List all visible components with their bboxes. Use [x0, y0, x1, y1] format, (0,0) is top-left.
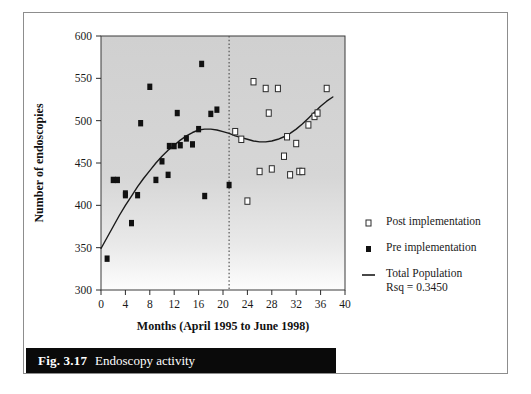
data-point-post	[263, 85, 268, 91]
figure-root: 300350400450500550600 048121620242832364…	[0, 0, 531, 394]
data-point-pre	[147, 84, 152, 90]
data-point-pre	[105, 255, 110, 261]
figure-caption-bar: Fig. 3.17 Endoscopy activity	[26, 348, 336, 373]
data-point-post	[300, 168, 305, 174]
data-point-post	[269, 166, 274, 172]
data-point-pre	[172, 143, 177, 149]
data-point-pre	[208, 111, 213, 117]
legend-marker-filled-square	[366, 246, 371, 252]
data-point-post	[315, 110, 320, 116]
y-axis-ticks: 300350400450500550600	[75, 30, 101, 296]
data-point-pre	[199, 61, 204, 67]
plot-background	[101, 36, 345, 290]
chart-legend: Post implementationPre implementationTot…	[362, 215, 481, 294]
data-point-pre	[202, 193, 207, 199]
data-point-pre	[227, 182, 232, 188]
data-point-post	[257, 168, 262, 174]
data-point-pre	[190, 141, 195, 147]
data-point-post	[282, 153, 287, 159]
x-axis-tick-label: 8	[147, 298, 153, 310]
data-point-pre	[214, 106, 219, 112]
legend-entry-sublabel: Rsq = 0.3450	[386, 281, 448, 294]
data-point-post	[245, 198, 250, 204]
data-point-pre	[167, 143, 172, 149]
data-point-post	[306, 122, 311, 128]
data-point-pre	[138, 120, 143, 126]
x-axis-tick-label: 36	[315, 298, 327, 310]
data-point-pre	[135, 192, 140, 198]
y-axis-tick-label: 450	[75, 157, 93, 169]
x-axis-tick-label: 24	[242, 298, 254, 310]
legend-entry-label: Total Population	[386, 267, 462, 280]
data-point-pre	[123, 190, 128, 196]
x-axis-tick-label: 12	[168, 298, 180, 310]
y-axis-tick-label: 350	[75, 242, 93, 254]
x-axis-tick-label: 40	[339, 298, 351, 310]
figure-caption-text: Endoscopy activity	[95, 353, 195, 369]
y-axis-tick-label: 600	[75, 30, 93, 42]
data-point-post	[294, 140, 299, 146]
data-point-post	[251, 79, 256, 85]
data-point-pre	[115, 177, 120, 183]
x-axis-tick-label: 4	[123, 298, 129, 310]
legend-entry-label: Pre implementation	[386, 241, 477, 254]
endoscopy-activity-chart: 300350400450500550600 048121620242832364…	[0, 0, 531, 394]
data-point-post	[288, 172, 293, 178]
data-point-pre	[111, 177, 116, 183]
x-axis-tick-label: 32	[290, 298, 302, 310]
data-point-pre	[129, 220, 134, 226]
figure-caption-label: Fig. 3.17	[38, 353, 87, 369]
x-axis-ticks: 0481216202428323640	[98, 290, 351, 310]
data-point-post	[285, 134, 290, 140]
data-point-pre	[196, 126, 201, 132]
y-axis-title: Number of endoscopies	[32, 103, 46, 222]
y-axis-tick-label: 500	[75, 115, 93, 127]
y-axis-tick-label: 550	[75, 72, 93, 84]
data-point-pre	[166, 172, 171, 178]
x-axis-tick-label: 0	[98, 298, 104, 310]
data-point-pre	[160, 158, 165, 164]
data-point-pre	[175, 110, 180, 116]
x-axis-tick-label: 20	[217, 298, 229, 310]
x-axis-title: Months (April 1995 to June 1998)	[137, 319, 309, 333]
data-point-post	[239, 136, 244, 142]
data-point-post	[233, 128, 238, 134]
legend-entry-label: Post implementation	[386, 215, 481, 228]
data-point-post	[275, 85, 280, 91]
data-point-post	[266, 110, 271, 116]
data-point-pre	[178, 142, 183, 148]
y-axis-tick-label: 300	[75, 284, 93, 296]
y-axis-tick-label: 400	[75, 199, 93, 211]
legend-marker-open-square	[366, 220, 371, 226]
x-axis-tick-label: 28	[266, 298, 278, 310]
x-axis-tick-label: 16	[193, 298, 205, 310]
data-point-pre	[184, 135, 189, 141]
data-point-post	[324, 85, 329, 91]
data-point-pre	[153, 177, 158, 183]
